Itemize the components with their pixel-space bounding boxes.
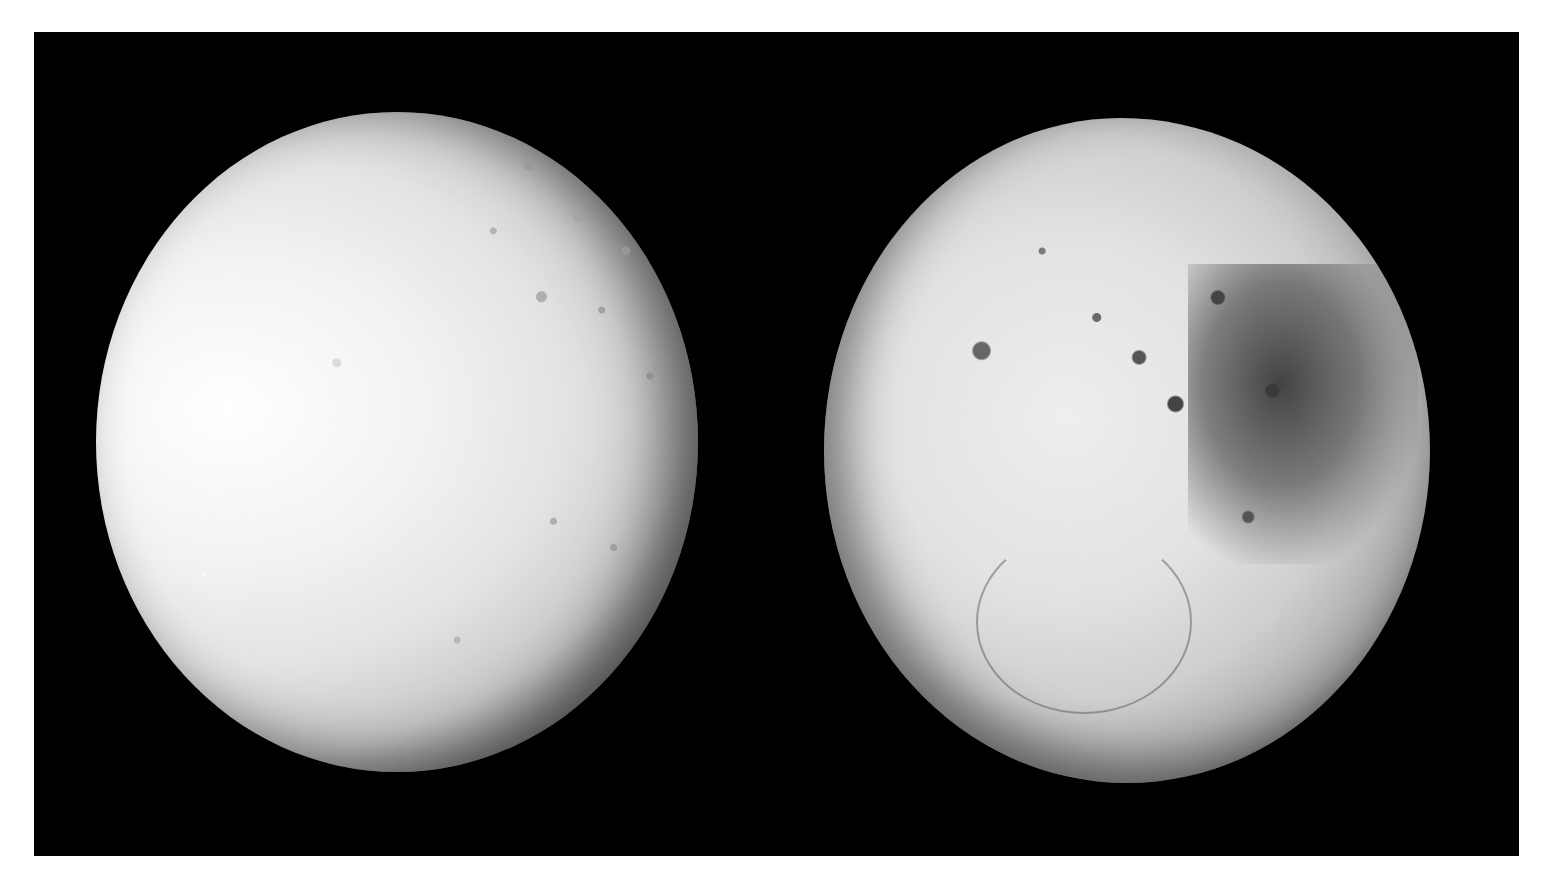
- image-panel: [34, 32, 1519, 856]
- cropped-caption: [34, 864, 1519, 879]
- left-moon: [96, 112, 698, 772]
- right-moon: [824, 118, 1430, 783]
- right-moon-basin: [976, 530, 1192, 714]
- left-moon-craters: [96, 112, 698, 772]
